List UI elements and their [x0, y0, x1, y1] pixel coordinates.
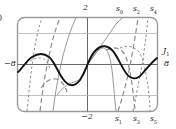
curve-label-s1-sub: 1: [119, 119, 122, 125]
figure-panel: ) 2 −2 −8 8 J1 s0 s2 s4 s1 s3 s5: [0, 0, 176, 129]
x-tick-top-label: 2: [83, 4, 88, 12]
x-tick-bottom-label: −2: [81, 113, 93, 121]
curve-label-s1: s1: [115, 115, 122, 125]
function-label: J1: [163, 47, 169, 57]
curve-label-s5: s5: [150, 115, 157, 125]
curve-label-s2: s2: [133, 5, 140, 15]
plot-canvas: [0, 0, 176, 129]
part-label: ): [0, 14, 2, 22]
curve-label-s4: s4: [150, 5, 157, 15]
curve-label-s0-sub: 0: [120, 9, 123, 15]
x-tick-right-label: 8: [164, 60, 169, 68]
curve-label-s0: s0: [116, 5, 123, 15]
curve-label-s2-sub: 2: [137, 9, 140, 15]
x-tick-left-label: −8: [4, 60, 16, 68]
curve-label-s5-sub: 5: [154, 119, 157, 125]
curve-label-s3-sub: 3: [137, 119, 140, 125]
curve-s3-left-hook: [41, 79, 67, 92]
function-label-sub: 1: [166, 51, 169, 57]
curve-label-s4-sub: 4: [154, 9, 157, 15]
curve-s1-left-hook: [57, 65, 87, 95]
curve-label-s3: s3: [133, 115, 140, 125]
